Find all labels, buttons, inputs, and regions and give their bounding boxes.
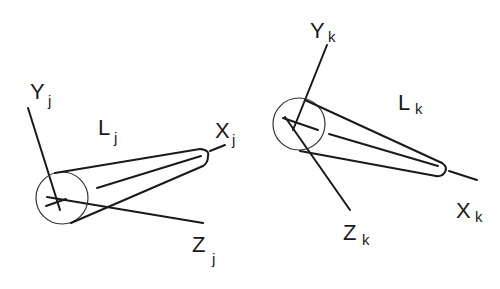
y-axis-j — [28, 108, 60, 210]
joint-circle-j — [36, 172, 88, 224]
z-axis-k — [285, 117, 350, 210]
y-axis-k-label: Y — [310, 18, 325, 43]
link-j-label: L — [98, 115, 110, 140]
link-j-top-edge — [55, 149, 200, 173]
link-k-sub: k — [415, 100, 423, 117]
y-axis-k — [293, 45, 327, 130]
z-axis-j — [47, 197, 203, 223]
y-axis-k-sub: k — [328, 28, 336, 45]
link-k-label: L — [398, 90, 410, 115]
y-axis-j-sub: j — [47, 92, 51, 109]
z-axis-j-sub: j — [211, 250, 215, 267]
link-j: Y j L j X j Z j — [28, 79, 235, 267]
link-j-tip — [200, 149, 208, 166]
link-j-bottom-edge — [71, 166, 203, 223]
x-axis-k-mid — [329, 134, 438, 166]
coordinate-frames-diagram: Y j L j X j Z j Y k L k X k Z k — [0, 0, 500, 289]
x-axis-k-end — [449, 171, 477, 180]
link-k: Y k L k X k Z k — [273, 18, 483, 248]
link-k-bottom-edge — [300, 151, 436, 176]
y-axis-j-label: Y — [30, 79, 45, 104]
x-axis-j-label: X — [215, 118, 230, 143]
z-axis-k-sub: k — [362, 231, 370, 248]
x-axis-k-label: X — [456, 198, 471, 223]
x-axis-k-start — [283, 118, 318, 130]
x-axis-k-sub: k — [475, 208, 483, 225]
x-axis-j-mid — [97, 156, 201, 188]
x-axis-j-end — [210, 145, 225, 151]
z-axis-k-label: Z — [343, 220, 356, 245]
link-j-sub: j — [113, 129, 117, 146]
x-axis-j-sub: j — [231, 131, 235, 148]
z-axis-j-label: Z — [192, 232, 205, 257]
